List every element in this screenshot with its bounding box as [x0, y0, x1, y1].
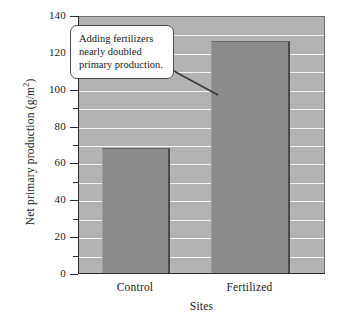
x-axis-label-control: Control [75, 281, 195, 293]
y-axis-tick-label: 0 [26, 268, 66, 279]
y-axis-tick-major [70, 16, 78, 17]
y-axis-tick-label: 20 [26, 231, 66, 242]
y-axis-tick-label: 100 [26, 84, 66, 95]
annotation-line-1: Adding fertilizers [79, 32, 165, 45]
y-axis-tick-label: 80 [26, 121, 66, 132]
bar-control [102, 148, 170, 273]
annotation-line-2: nearly doubled [79, 45, 165, 58]
y-axis-title-suffix: ) [24, 79, 36, 83]
y-axis-tick-major [70, 163, 78, 164]
y-axis-tick-label: 120 [26, 47, 66, 58]
x-axis-label-fertilized: Fertilized [190, 281, 310, 293]
bar-fertilized [211, 41, 290, 273]
y-axis-tick-major [70, 274, 78, 275]
y-axis-tick-label: 60 [26, 157, 66, 168]
x-axis-title: Sites [78, 300, 325, 312]
y-axis-tick-label: 140 [26, 10, 66, 21]
y-axis-tick-major [70, 127, 78, 128]
y-axis-tick-major [70, 200, 78, 201]
x-axis-line [78, 273, 325, 274]
annotation-line-3: primary production. [79, 58, 165, 71]
y-axis-tick-major [70, 90, 78, 91]
annotation-callout: Adding fertilizers nearly doubled primar… [70, 25, 174, 79]
bar-chart-figure: Net primary production (g/m2) 0204060801… [0, 0, 342, 320]
y-axis-tick-label: 40 [26, 194, 66, 205]
y-axis-tick-major [70, 237, 78, 238]
